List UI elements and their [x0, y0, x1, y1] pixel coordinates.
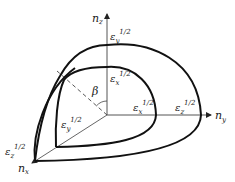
nz-axis-label: nz — [92, 12, 103, 26]
beta-angle-arc — [97, 101, 108, 106]
ny-axis-label: ny — [215, 109, 227, 124]
outer-right-label: εz1/2 — [175, 99, 196, 116]
outer-front-label: εz1/2 — [5, 143, 26, 160]
inner-top-label: εx1/2 — [110, 70, 131, 87]
outer-xy-curve — [35, 115, 201, 161]
nx-axis-label: nx — [18, 162, 29, 176]
index-surface-diagram: nz ny nx β εy1/2 εx1/2 εx1/2 εz1/2 εy1/2… — [0, 0, 235, 182]
inner-front-label: εy1/2 — [61, 116, 82, 133]
outer-xz-curve — [35, 45, 107, 161]
inner-right-label: εx1/2 — [133, 99, 154, 116]
outer-top-label: εy1/2 — [110, 28, 131, 45]
beta-label: β — [91, 85, 98, 98]
